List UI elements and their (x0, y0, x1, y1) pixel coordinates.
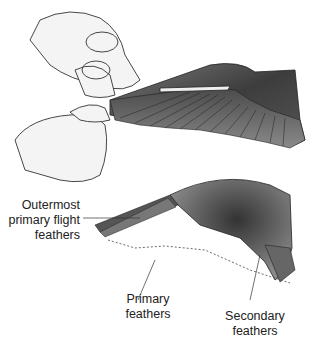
label-line: Primary (118, 292, 178, 307)
label-outermost-primary: Outermost primary flight feathers (4, 198, 80, 243)
label-line: primary flight (4, 213, 80, 228)
label-line: Secondary (215, 309, 295, 324)
label-line: feathers (118, 307, 178, 322)
label-secondary-feathers: Secondary feathers (215, 309, 295, 339)
label-line: feathers (215, 324, 295, 339)
upper-wing (110, 64, 305, 148)
label-line: Outermost (4, 198, 80, 213)
clipped-wing (95, 179, 295, 283)
label-line: feathers (4, 228, 80, 243)
label-primary-feathers: Primary feathers (118, 292, 178, 322)
